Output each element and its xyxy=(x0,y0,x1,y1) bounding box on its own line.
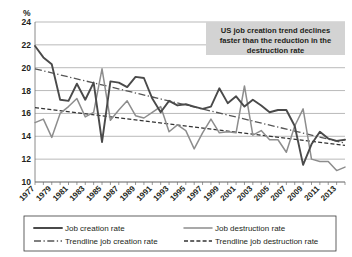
x-tick-label-1977: 1977 xyxy=(17,184,36,203)
annotation-line-2: faster than the reduction in the xyxy=(220,36,331,45)
x-axis: 1977197919811983198519871989199119931995… xyxy=(17,182,345,203)
y-axis-unit-label: % xyxy=(23,8,31,18)
x-tick-label-1989: 1989 xyxy=(118,184,137,203)
series-line-job-creation-rate xyxy=(35,46,345,165)
x-tick-label-1979: 1979 xyxy=(34,184,53,203)
x-tick-label-2005: 2005 xyxy=(252,184,271,203)
x-tick-label-1995: 1995 xyxy=(168,184,187,203)
legend-label-text: Job creation rate xyxy=(65,224,125,233)
y-tick-label-24: 24 xyxy=(22,17,32,27)
x-tick-label-2003: 2003 xyxy=(235,184,254,203)
series-line-job-destruction-rate xyxy=(35,69,345,171)
y-tick-label-12: 12 xyxy=(22,154,32,164)
x-tick-label-1987: 1987 xyxy=(101,184,120,203)
annotation-callout: US job creation trend declinesfaster tha… xyxy=(206,22,345,55)
x-tick-label-1983: 1983 xyxy=(68,184,87,203)
y-axis: 1012141618202224 xyxy=(22,17,35,187)
annotation-line-3: destruction rate xyxy=(247,46,304,55)
x-tick-label-2001: 2001 xyxy=(219,184,238,203)
x-tick-label-1981: 1981 xyxy=(51,184,70,203)
data-series xyxy=(35,46,345,171)
chart-legend: Job creation rateJob destruction rateTre… xyxy=(24,216,336,251)
chart-container: 1012141618202224 19771979198119831985198… xyxy=(0,0,352,257)
job-flows-line-chart: 1012141618202224 19771979198119831985198… xyxy=(0,0,352,257)
x-tick-label-1993: 1993 xyxy=(152,184,171,203)
y-tick-label-14: 14 xyxy=(22,131,32,141)
legend-label-text: Trendline job creation rate xyxy=(65,237,158,246)
x-tick-label-2011: 2011 xyxy=(303,184,322,203)
y-tick-label-22: 22 xyxy=(22,40,32,50)
y-tick-label-20: 20 xyxy=(22,63,32,73)
x-tick-label-1999: 1999 xyxy=(202,184,221,203)
legend-label-text: Trendline job destruction rate xyxy=(215,237,319,246)
legend-label-text: Job destruction rate xyxy=(215,224,286,233)
x-tick-label-2009: 2009 xyxy=(286,184,305,203)
x-tick-label-1985: 1985 xyxy=(84,184,103,203)
x-tick-label-2007: 2007 xyxy=(269,184,288,203)
x-tick-label-1991: 1991 xyxy=(135,184,154,203)
y-tick-label-16: 16 xyxy=(22,108,32,118)
annotation-line-1: US job creation trend declines xyxy=(221,26,330,35)
y-tick-label-18: 18 xyxy=(22,86,32,96)
x-tick-label-2013: 2013 xyxy=(319,184,338,203)
x-tick-label-1997: 1997 xyxy=(185,184,204,203)
